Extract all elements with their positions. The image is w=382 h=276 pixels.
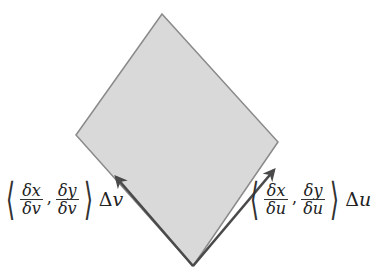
left-angle-bracket: ⟨ [250,177,259,221]
delta-v: Δv [99,188,123,210]
fraction-dy-du: δy δu [301,182,325,217]
u-vector-label: ⟨ δx δu , δy δu ⟩ Δu [246,177,371,221]
fraction-dx-du: δx δu [264,182,288,217]
right-angle-bracket: ⟩ [83,177,92,221]
diagram-canvas [0,0,382,276]
delta-u: Δu [345,188,371,210]
fraction-dy-dv: δy δv [56,182,79,217]
parallelogram-region [76,14,278,266]
right-angle-bracket: ⟩ [330,177,339,221]
v-vector-label: ⟨ δx δv , δy δv ⟩ Δv [2,177,123,221]
left-angle-bracket: ⟨ [6,177,15,221]
fraction-dx-dv: δx δv [20,182,43,217]
